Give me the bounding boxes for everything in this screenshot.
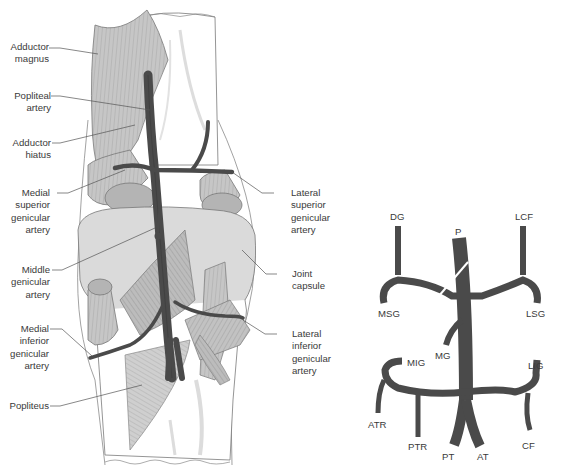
label-adductor-magnus: Adductor magnus — [2, 41, 49, 66]
schematic-label-ptr: PTR — [408, 441, 427, 452]
artery-schematic — [378, 226, 537, 446]
label-lateral-superior-genicular-artery: Lateral superior genicular artery — [291, 187, 330, 237]
schematic-label-atr: ATR — [368, 419, 386, 430]
label-popliteus: Popliteus — [2, 400, 49, 412]
label-adductor-hiatus: Adductor hiatus — [2, 137, 51, 162]
schematic-label-lig: LIG — [528, 360, 543, 371]
schematic-label-lsg: LSG — [526, 308, 545, 319]
label-lateral-inferior-genicular-artery: Lateral inferior genicular artery — [292, 328, 331, 378]
knee-anatomy-illustration — [0, 0, 577, 470]
schematic-label-lcf: LCF — [515, 211, 533, 222]
label-medial-superior-genicular-artery: Medial superior genicular artery — [2, 187, 50, 237]
schematic-label-mig: MIG — [407, 357, 425, 368]
schematic-label-cf: CF — [522, 440, 535, 451]
schematic-label-p: P — [455, 226, 461, 237]
knee-drawing — [78, 10, 256, 465]
label-popliteal-artery: Popliteal artery — [2, 90, 51, 115]
schematic-label-at: AT — [477, 451, 489, 462]
schematic-label-dg: DG — [390, 211, 404, 222]
schematic-label-pt: PT — [442, 451, 454, 462]
schematic-label-msg: MSG — [378, 308, 400, 319]
label-middle-genicular-artery: Middle genicular artery — [2, 264, 50, 301]
schematic-label-mg: MG — [435, 350, 450, 361]
label-medial-inferior-genicular-artery: Medial inferior genicular artery — [2, 323, 49, 373]
label-joint-capsule: Joint capsule — [292, 268, 325, 293]
